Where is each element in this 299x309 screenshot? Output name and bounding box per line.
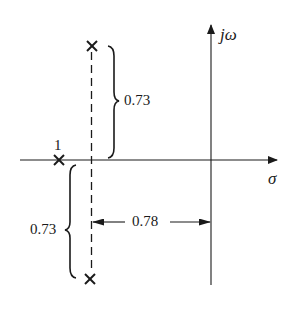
s-plane-diagram — [0, 0, 299, 309]
sigma-axis-label: σ — [268, 170, 276, 187]
upper-brace-icon — [108, 46, 119, 158]
pole-lower-x-icon — [85, 274, 95, 284]
j-omega-omega: ω — [225, 25, 237, 44]
lower-brace-value-label: 0.73 — [30, 222, 56, 237]
pole-multiplicity-label: 1 — [54, 138, 62, 153]
pole-upper-x-icon — [87, 41, 97, 51]
j-omega-axis-label: jω — [220, 26, 237, 43]
real-distance-label: 0.78 — [132, 214, 158, 229]
lower-brace-icon — [65, 165, 76, 278]
upper-brace-value-label: 0.73 — [124, 93, 150, 108]
